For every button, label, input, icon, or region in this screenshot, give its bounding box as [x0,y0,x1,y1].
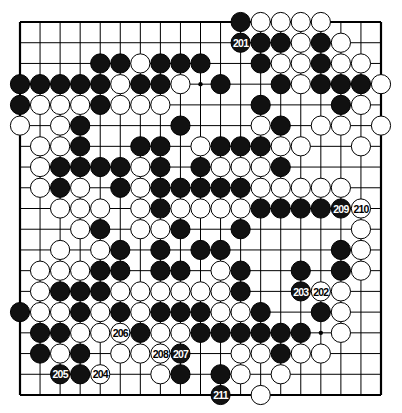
white-stone [251,12,270,31]
white-stone [171,323,190,342]
black-stone [231,137,250,156]
white-stone: 210 [351,199,370,218]
white-stone [151,323,170,342]
black-stone [91,95,110,114]
black-stone [151,261,170,280]
black-stone [251,33,270,52]
white-stone [71,261,90,280]
black-stone [71,282,90,301]
black-stone [351,75,370,94]
black-stone [111,54,130,73]
white-stone [51,95,70,114]
white-stone [351,261,370,280]
black-stone [271,157,290,176]
white-stone [351,220,370,239]
move-number-label: 203 [293,286,309,298]
white-stone [131,220,150,239]
white-stone [111,282,130,301]
black-stone [71,75,90,94]
white-stone [251,178,270,197]
white-stone [231,365,250,384]
black-stone [151,137,170,156]
white-stone [231,344,250,363]
black-stone [30,344,49,363]
black-stone [171,365,190,384]
black-stone: 207 [171,344,190,363]
white-stone [111,95,130,114]
black-stone [91,220,110,239]
black-stone [171,178,190,197]
white-stone [131,54,150,73]
black-stone [211,323,230,342]
white-stone [30,178,49,197]
white-stone [51,137,70,156]
star-point [319,331,323,335]
move-number-label: 201 [233,37,249,49]
black-stone [91,261,110,280]
black-stone [171,303,190,322]
black-stone: 209 [331,199,350,218]
white-stone [71,199,90,218]
white-stone [71,220,90,239]
black-stone [71,303,90,322]
white-stone [331,178,350,197]
white-stone [30,137,49,156]
move-number-label: 204 [93,368,109,380]
black-stone [171,261,190,280]
white-stone [171,282,190,301]
white-stone [251,385,270,404]
white-stone [251,344,270,363]
black-stone [331,95,350,114]
white-stone: 202 [311,282,330,301]
white-stone [311,12,330,31]
move-number-label: 209 [333,203,349,215]
white-stone [231,303,250,322]
white-stone [131,199,150,218]
black-stone [271,75,290,94]
white-stone [351,54,370,73]
white-stone [151,95,170,114]
white-stone [171,75,190,94]
black-stone [91,282,110,301]
white-stone [291,54,310,73]
black-stone [30,323,49,342]
black-stone [191,303,210,322]
white-stone [231,157,250,176]
black-stone [111,261,130,280]
black-stone [231,12,250,31]
black-stone [271,323,290,342]
white-stone [211,282,230,301]
white-stone [351,240,370,259]
black-stone [71,137,90,156]
white-stone [131,178,150,197]
white-stone [51,240,70,259]
white-stone [30,282,49,301]
white-stone [271,178,290,197]
white-stone [191,282,210,301]
black-stone [71,157,90,176]
black-stone [231,282,250,301]
white-stone [71,323,90,342]
white-stone [291,137,310,156]
black-stone [211,240,230,259]
white-stone [291,33,310,52]
black-stone [291,199,310,218]
white-stone [291,75,310,94]
black-stone [331,240,350,259]
white-stone [351,95,370,114]
white-stone [371,75,390,94]
black-stone [231,220,250,239]
white-stone [30,95,49,114]
black-stone [311,75,330,94]
black-stone [111,240,130,259]
move-number-label: 207 [173,348,189,360]
white-stone [30,303,49,322]
black-stone [171,116,190,135]
black-stone [311,54,330,73]
black-stone [271,116,290,135]
white-stone [311,116,330,135]
black-stone [91,54,110,73]
black-stone [30,75,49,94]
black-stone [10,303,29,322]
white-stone [231,199,250,218]
